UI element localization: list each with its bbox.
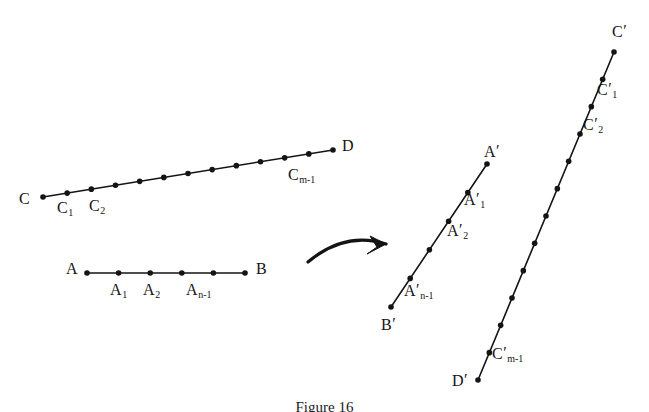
segment-cd-division-point <box>209 167 215 173</box>
label-point-a2-subscript: 2 <box>155 289 160 300</box>
label-point-c: C <box>19 191 30 207</box>
label-point-c2-prime-subscript: 2 <box>598 124 603 135</box>
segment-cd-division-point <box>306 151 312 157</box>
label-point-cm-1-prime: C′m-1 <box>492 345 523 364</box>
segment-d-prime-c-prime-division-point <box>521 268 527 274</box>
label-point-a-prime-prime-mark: ′ <box>496 142 500 159</box>
label-point-a1-prime: A′1 <box>464 191 485 210</box>
segment-b-prime-a-prime-division-point <box>484 161 490 167</box>
label-point-d-base: D <box>342 137 354 154</box>
segment-cd-division-point <box>330 147 336 153</box>
segment-cd-division-point <box>161 175 167 181</box>
label-point-c1: C1 <box>57 200 73 218</box>
label-point-b-base: B <box>256 260 267 277</box>
segment-cd-division-point <box>282 155 288 161</box>
label-point-c-prime: C′ <box>612 23 627 40</box>
label-point-b-prime: B′ <box>381 316 396 333</box>
label-point-c2-base: C <box>89 197 100 214</box>
label-point-c1-prime-subscript: 1 <box>612 89 617 100</box>
label-point-d: D <box>342 138 354 154</box>
label-point-a-prime-base: A <box>484 143 496 160</box>
label-point-c1-prime: C′1 <box>597 81 617 100</box>
label-point-c-prime-prime-mark: ′ <box>623 22 627 39</box>
segment-cd-division-point <box>64 190 70 196</box>
label-point-c-prime-base: C <box>612 23 623 40</box>
segment-d-prime-c-prime-division-point <box>532 241 538 247</box>
segment-d-prime-c-prime-division-point <box>543 213 549 219</box>
label-point-a1-subscript: 1 <box>122 289 127 300</box>
segment-d-prime-c-prime <box>475 49 617 383</box>
segment-cd-division-point <box>40 194 46 200</box>
label-point-an-1-subscript: n-1 <box>198 289 212 300</box>
label-point-a1: A1 <box>110 282 127 300</box>
label-point-an-1-prime: A′n-1 <box>404 282 434 301</box>
segment-ab-division-point <box>242 270 248 276</box>
label-point-an-1-base: A <box>186 281 198 298</box>
label-point-a-base: A <box>66 260 78 277</box>
segment-d-prime-c-prime-division-point <box>589 104 595 110</box>
segment-cd-division-point <box>137 179 143 185</box>
label-point-a2: A2 <box>143 282 160 300</box>
label-point-a2-prime: A′2 <box>447 222 468 241</box>
label-point-cm-1-prime-base: C <box>492 345 503 362</box>
segments-group <box>40 49 617 383</box>
segment-b-prime-a-prime-division-point <box>407 276 413 282</box>
label-point-c2-prime: C′2 <box>583 116 603 135</box>
label-point-b-prime-base: B <box>381 316 392 333</box>
label-point-cm-1-prime-subscript: m-1 <box>507 353 524 364</box>
label-point-d-prime: D′ <box>452 372 468 389</box>
label-point-c2-prime-base: C <box>583 116 594 133</box>
segment-cd-division-point <box>185 171 191 177</box>
segment-b-prime-a-prime-division-point <box>388 304 394 310</box>
label-point-c1-base: C <box>57 199 68 216</box>
label-point-d-prime-base: D <box>452 372 464 389</box>
segment-ab-division-point <box>116 270 122 276</box>
segment-d-prime-c-prime-division-point <box>509 295 515 301</box>
label-point-a1-prime-base: A <box>464 191 476 208</box>
segment-b-prime-a-prime-division-point <box>427 247 433 253</box>
label-point-c2-subscript: 2 <box>100 205 105 216</box>
label-point-an-1: An-1 <box>186 282 212 300</box>
transform-arrow-group <box>308 236 386 262</box>
label-point-cm-1-base: C <box>288 166 299 183</box>
label-point-a2-prime-subscript: 2 <box>463 230 468 241</box>
transform-arrow-head-icon <box>367 236 386 254</box>
segment-cd-division-point <box>113 182 119 188</box>
segment-cd-division-point <box>234 163 240 169</box>
segment-cd-division-point <box>89 186 95 192</box>
label-point-a2-prime-base: A <box>447 222 459 239</box>
label-point-b-prime-prime-mark: ′ <box>392 315 396 332</box>
segment-d-prime-c-prime-division-point <box>475 377 481 383</box>
segment-d-prime-c-prime-division-point <box>577 131 583 137</box>
segment-d-prime-c-prime-division-point <box>555 186 561 192</box>
label-point-cm-1-subscript: m-1 <box>299 174 316 185</box>
figure-caption: Figure 16 <box>0 399 649 412</box>
segment-d-prime-c-prime-division-point <box>611 49 617 55</box>
label-point-a2-base: A <box>143 281 155 298</box>
label-point-an-1-prime-base: A <box>404 282 416 299</box>
label-point-c1-subscript: 1 <box>68 207 73 218</box>
segment-cd-division-point <box>258 159 264 165</box>
segment-ab-division-point <box>179 270 185 276</box>
segment-ab-division-point <box>147 270 153 276</box>
segment-ab-division-point <box>84 270 90 276</box>
label-point-a-prime: A′ <box>484 143 500 160</box>
label-point-cm-1: Cm-1 <box>288 167 315 185</box>
label-point-a: A <box>66 261 78 277</box>
segment-d-prime-c-prime-division-point <box>566 159 572 165</box>
label-point-d-prime-prime-mark: ′ <box>464 371 468 388</box>
label-point-a1-prime-subscript: 1 <box>480 199 485 210</box>
label-point-b: B <box>256 261 267 277</box>
segment-ab <box>84 270 248 276</box>
label-point-an-1-prime-subscript: n-1 <box>420 290 434 301</box>
label-point-c-base: C <box>19 190 30 207</box>
segment-ab-division-point <box>211 270 217 276</box>
label-point-c2: C2 <box>89 198 105 216</box>
segment-d-prime-c-prime-division-point <box>498 323 504 329</box>
label-point-c1-prime-base: C <box>597 81 608 98</box>
figure-16-diagram: CC1C2Cm-1DAA1A2An-1BA′A′1A′2A′n-1B′C′C′1… <box>0 0 649 412</box>
label-point-a1-base: A <box>110 281 122 298</box>
